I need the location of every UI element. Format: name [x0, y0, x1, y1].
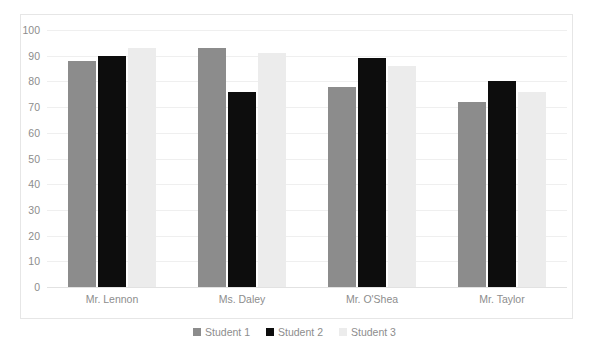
legend-label: Student 3	[351, 326, 396, 338]
legend-item[interactable]: Student 2	[266, 326, 323, 338]
y-axis-tick-label: 40	[0, 179, 40, 190]
legend-swatch-icon	[339, 328, 347, 336]
legend-label: Student 1	[205, 326, 250, 338]
legend-label: Student 2	[278, 326, 323, 338]
legend-item[interactable]: Student 3	[339, 326, 396, 338]
y-axis-tick-label: 10	[0, 256, 40, 267]
gridline	[47, 287, 567, 288]
legend-swatch-icon	[193, 328, 201, 336]
x-axis-tick-label: Mr. Taylor	[479, 293, 524, 305]
legend-swatch-icon	[266, 328, 274, 336]
bar-chart: 1009080706050403020100 Mr. LennonMs. Dal…	[0, 0, 589, 361]
y-axis-tick-label: 0	[0, 282, 40, 293]
y-axis-tick-label: 30	[0, 205, 40, 216]
chart-title	[0, 0, 589, 3]
y-axis-tick-label: 50	[0, 153, 40, 164]
x-axis-tick-label: Mr. O'Shea	[346, 293, 398, 305]
y-axis-tick-label: 90	[0, 50, 40, 61]
y-axis-tick-label: 70	[0, 102, 40, 113]
y-axis-ticks: 1009080706050403020100	[0, 30, 589, 287]
y-axis-tick-label: 80	[0, 76, 40, 87]
x-axis-tick-label: Mr. Lennon	[86, 293, 139, 305]
y-axis-tick-label: 60	[0, 128, 40, 139]
y-axis-tick-label: 20	[0, 230, 40, 241]
legend-item[interactable]: Student 1	[193, 326, 250, 338]
x-axis-tick-label: Ms. Daley	[219, 293, 266, 305]
chart-legend: Student 1Student 2Student 3	[0, 326, 589, 338]
y-axis-tick-label: 100	[0, 25, 40, 36]
